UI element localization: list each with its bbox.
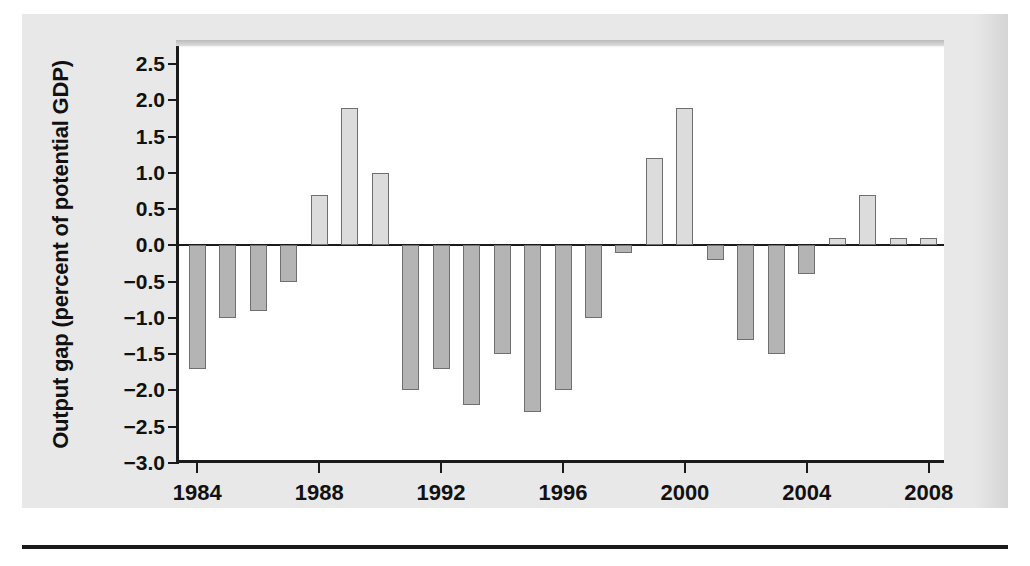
y-axis-title: Output gap (percent of potential GDP) <box>44 46 78 463</box>
bar-1999 <box>646 158 663 245</box>
bars-layer <box>179 46 944 460</box>
bar-2006 <box>859 195 876 246</box>
x-axis-tick-mark <box>440 460 442 473</box>
x-axis-tick-mark <box>318 460 320 473</box>
y-axis-tick-label: −2.0 <box>124 378 165 402</box>
x-axis-tick-mark <box>684 460 686 473</box>
bar-1991 <box>402 245 419 390</box>
bar-2002 <box>737 245 754 339</box>
bar-1987 <box>280 245 297 281</box>
bar-1996 <box>555 245 572 390</box>
bar-1997 <box>585 245 602 318</box>
bar-1994 <box>494 245 511 354</box>
bar-2000 <box>676 108 693 246</box>
y-axis-tick-mark <box>168 353 179 355</box>
y-axis-tick-mark <box>168 63 179 65</box>
bar-1995 <box>524 245 541 412</box>
y-axis-tick-mark <box>168 99 179 101</box>
y-axis-tick-mark <box>168 389 179 391</box>
bar-1993 <box>463 245 480 405</box>
bar-2007 <box>890 238 907 245</box>
x-axis-tick-label: 2004 <box>782 480 831 506</box>
x-axis-tick-mark <box>928 460 930 473</box>
y-axis-tick-label: −2.5 <box>124 415 165 439</box>
bar-1985 <box>219 245 236 318</box>
bar-2004 <box>798 245 815 274</box>
y-axis-tick-label: −0.5 <box>124 270 165 294</box>
bar-1990 <box>372 173 389 246</box>
bar-1986 <box>250 245 267 310</box>
y-axis-tick-mark <box>168 317 179 319</box>
x-axis-tick-label: 1992 <box>417 480 466 506</box>
bar-1989 <box>341 108 358 246</box>
x-axis-tick-label: 2008 <box>904 480 953 506</box>
figure-page: Output gap (percent of potential GDP) 2.… <box>0 0 1030 566</box>
y-axis-tick-mark <box>168 172 179 174</box>
y-axis-tick-label: 1.5 <box>136 125 165 149</box>
bar-2005 <box>829 238 846 245</box>
y-axis-tick-label: −1.0 <box>124 306 165 330</box>
x-axis-tick-label: 1984 <box>173 480 222 506</box>
page-edge-shading <box>974 14 1008 508</box>
bar-1988 <box>311 195 328 246</box>
y-axis-tick-mark <box>168 208 179 210</box>
y-axis-tick-label: −3.0 <box>124 451 165 475</box>
y-axis-tick-label: 0.5 <box>136 197 165 221</box>
y-axis-tick-mark <box>168 136 179 138</box>
bar-2008 <box>920 238 937 245</box>
y-axis-tick-mark <box>168 426 179 428</box>
x-axis-tick-label: 2000 <box>660 480 709 506</box>
bar-1992 <box>433 245 450 368</box>
x-axis-tick-mark <box>806 460 808 473</box>
y-axis-tick-mark <box>168 244 179 246</box>
x-axis-tick-mark <box>196 460 198 473</box>
bar-1998 <box>615 245 632 252</box>
y-axis-tick-label: 2.5 <box>136 52 165 76</box>
x-axis-tick-mark <box>562 460 564 473</box>
y-axis-tick-mark <box>168 281 179 283</box>
bar-2003 <box>768 245 785 354</box>
bar-1984 <box>189 245 206 368</box>
y-axis-tick-label: 0.0 <box>136 233 165 257</box>
plot-area: 2.52.01.51.00.50.0−0.5−1.0−1.5−2.0−2.5−3… <box>176 46 944 463</box>
x-axis-tick-label: 1988 <box>295 480 344 506</box>
y-axis-tick-label: 2.0 <box>136 88 165 112</box>
x-axis-tick-label: 1996 <box>539 480 588 506</box>
y-axis-tick-label: −1.5 <box>124 342 165 366</box>
bar-2001 <box>707 245 724 260</box>
y-axis-tick-label: 1.0 <box>136 161 165 185</box>
y-axis-tick-mark <box>168 462 179 464</box>
footer-rule <box>22 545 1008 549</box>
